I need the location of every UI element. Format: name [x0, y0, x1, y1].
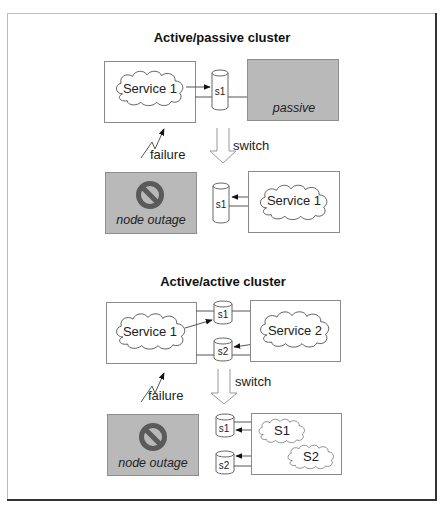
active-node-combined: S1 S2 — [252, 414, 342, 475]
cluster-diagram: Active/passive cluster Service 1 s1 pass… — [0, 0, 442, 510]
passive-node: passive — [248, 60, 339, 121]
active-node: Service 1 — [105, 62, 196, 123]
active-node-2: Service 2 — [251, 301, 341, 362]
storage-cylinder-s2: s2 — [214, 338, 232, 361]
service-label: S2 — [303, 449, 319, 464]
active-node: Service 1 — [249, 172, 340, 233]
switch-label: switch — [235, 374, 271, 389]
switch-label: switch — [233, 138, 269, 153]
outage-label: node outage — [116, 213, 186, 227]
service-label: S1 — [274, 423, 290, 438]
storage-label: s1 — [215, 86, 226, 97]
outage-node: node outage — [106, 173, 197, 234]
storage-cylinder-s1: s1 — [216, 414, 234, 437]
storage-cylinder-s1: s1 — [213, 183, 229, 223]
service-label: Service 1 — [123, 81, 177, 96]
outage-node: node outage — [108, 415, 199, 476]
storage-label: s2 — [218, 346, 229, 357]
storage-label: s1 — [219, 423, 230, 434]
passive-label: passive — [272, 101, 315, 115]
section-title: Active/passive cluster — [154, 30, 291, 45]
active-node-1: Service 1 — [107, 303, 197, 364]
service-label: Service 2 — [268, 323, 322, 338]
storage-label: s1 — [216, 199, 227, 210]
failure-label: failure — [148, 388, 183, 403]
section-title: Active/active cluster — [160, 274, 286, 289]
storage-cylinder-s1: s1 — [214, 301, 232, 324]
storage-cylinder-s1: s1 — [212, 70, 228, 110]
storage-label: s2 — [219, 460, 230, 471]
storage-cylinder-s2: s2 — [216, 451, 234, 474]
outage-label: node outage — [118, 456, 188, 470]
storage-label: s1 — [218, 309, 229, 320]
failure-label: failure — [150, 147, 185, 162]
service-label: Service 1 — [267, 193, 321, 208]
service-label: Service 1 — [123, 324, 177, 339]
